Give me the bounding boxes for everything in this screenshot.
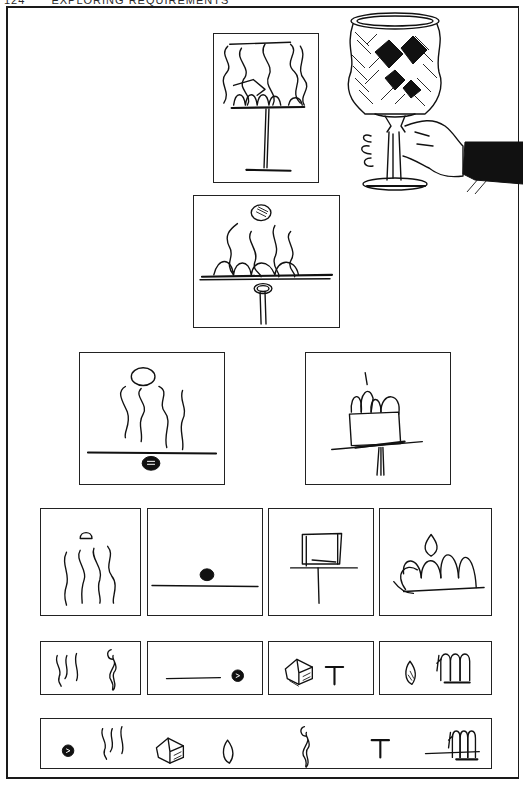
goblet-in-hand-icon <box>345 8 523 196</box>
panel-glyph-flame-arches <box>379 641 492 695</box>
waves-twist-glyph-icon <box>41 642 140 694</box>
goblet-in-hand-illustration <box>345 8 523 196</box>
panel-glyph-strip <box>40 718 492 769</box>
box-t-glyph-icon <box>269 642 373 694</box>
panel-waves <box>40 508 141 616</box>
waves-and-knob-icon <box>80 353 224 484</box>
panel-box-with-arches <box>305 352 451 485</box>
line-with-dot-icon <box>148 509 262 615</box>
waves-icon <box>41 509 140 615</box>
goblet-abstracted-icon <box>194 196 339 327</box>
arches-icon <box>380 509 491 615</box>
panel-glyph-waves-twist <box>40 641 141 695</box>
panel-goblet-abstracted <box>193 195 340 328</box>
flame-arches-glyph-icon <box>380 642 491 694</box>
table-shape-icon <box>269 509 373 615</box>
panel-goblet-sketch <box>213 33 319 183</box>
panel-glyph-line-dot <box>147 641 263 695</box>
panel-glyph-box-t <box>268 641 374 695</box>
panel-arches <box>379 508 492 616</box>
line-dot-glyph-icon <box>148 642 262 694</box>
panel-line-with-dot <box>147 508 263 616</box>
panel-table-shape <box>268 508 374 616</box>
panel-waves-and-knob <box>79 352 225 485</box>
box-with-arches-icon <box>306 353 450 484</box>
goblet-sketch-icon <box>214 34 318 182</box>
glyph-strip-icon <box>41 719 491 768</box>
